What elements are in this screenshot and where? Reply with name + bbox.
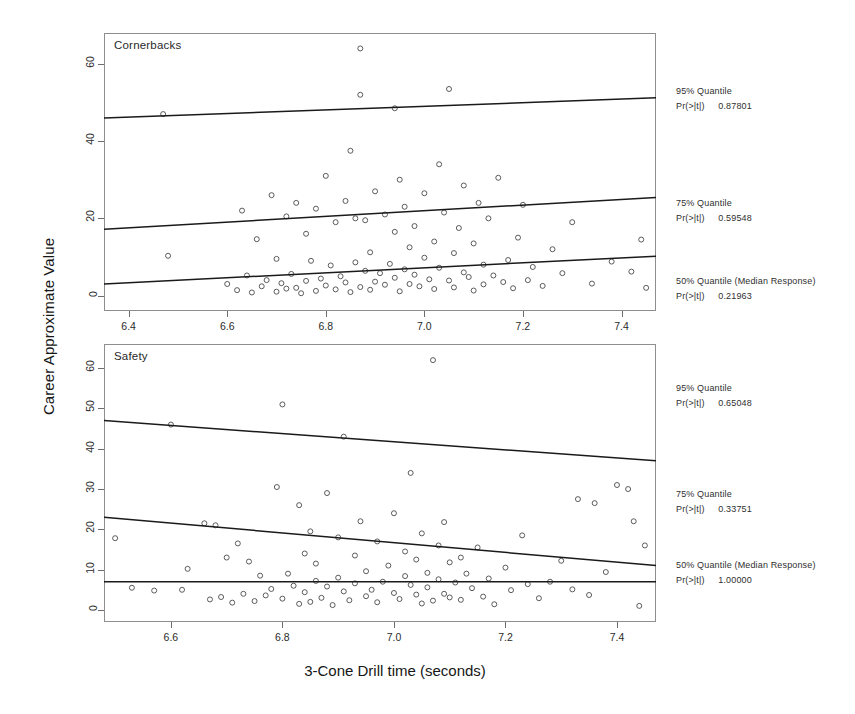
data-point xyxy=(486,576,491,581)
y-tick-text: 30 xyxy=(84,481,96,493)
annotation-pvalue-line: Pr(>|t|) 1.00000 xyxy=(676,573,816,588)
data-point xyxy=(364,594,369,599)
data-point xyxy=(603,570,608,575)
data-point xyxy=(525,278,530,283)
data-point xyxy=(240,208,245,213)
data-point xyxy=(451,285,456,290)
data-point xyxy=(430,358,435,363)
data-point xyxy=(609,259,614,264)
x-tick-label: 6.4 xyxy=(109,311,149,332)
x-tick-label: 7.0 xyxy=(404,311,444,332)
x-tick-label: 7.2 xyxy=(503,311,543,332)
data-point xyxy=(456,225,461,230)
data-point xyxy=(471,241,476,246)
data-point xyxy=(509,588,514,593)
data-point xyxy=(481,594,486,599)
data-point xyxy=(506,258,511,263)
data-point xyxy=(129,585,134,590)
data-point xyxy=(313,288,318,293)
data-point xyxy=(408,582,413,587)
y-tick-label: 50 xyxy=(50,400,96,412)
data-point xyxy=(352,553,357,558)
annotation-stat-label: Pr(>|t|) xyxy=(676,398,705,408)
data-point xyxy=(263,593,268,598)
annotation-quantile-label: 95% Quantile xyxy=(676,381,752,396)
data-point xyxy=(363,218,368,223)
data-point xyxy=(644,285,649,290)
y-axis-title: Career Approximate Value xyxy=(40,197,57,457)
data-point xyxy=(412,224,417,229)
data-point xyxy=(299,291,304,296)
data-point xyxy=(274,289,279,294)
annotation-stat-label: Pr(>|t|) xyxy=(676,291,705,301)
data-point xyxy=(402,204,407,209)
y-tick-mark xyxy=(98,408,104,409)
data-point xyxy=(325,584,330,589)
data-point xyxy=(430,598,435,603)
data-point xyxy=(466,275,471,280)
data-point xyxy=(323,173,328,178)
annotation-pvalue: 1.00000 xyxy=(718,573,752,588)
x-axis-title: 3-Cone Drill time (seconds) xyxy=(185,662,605,679)
x-tick-label: 7.2 xyxy=(485,622,525,643)
data-point xyxy=(403,549,408,554)
panel-label-cornerbacks: Cornerbacks xyxy=(114,39,181,51)
data-point xyxy=(432,239,437,244)
annotation-pvalue: 0.33751 xyxy=(718,502,752,517)
data-point xyxy=(259,284,264,289)
data-point xyxy=(343,198,348,203)
data-point xyxy=(286,571,291,576)
data-point xyxy=(453,580,458,585)
annotation-pvalue-line: Pr(>|t|) 0.21963 xyxy=(676,289,816,304)
data-point xyxy=(442,591,447,596)
data-point xyxy=(403,574,408,579)
data-point xyxy=(249,290,254,295)
data-point xyxy=(392,229,397,234)
data-point xyxy=(407,281,412,286)
data-point xyxy=(481,282,486,287)
data-point xyxy=(397,597,402,602)
data-point xyxy=(378,271,383,276)
annotation-quantile-label: 75% Quantile xyxy=(676,196,752,211)
data-point xyxy=(451,251,456,256)
x-tick-label: 7.4 xyxy=(602,311,642,332)
x-tick-label: 6.8 xyxy=(306,311,346,332)
data-point xyxy=(397,177,402,182)
data-point xyxy=(432,286,437,291)
data-point xyxy=(391,511,396,516)
data-point xyxy=(587,593,592,598)
data-point xyxy=(407,245,412,250)
data-point xyxy=(333,287,338,292)
annotation-quantile-label: 95% Quantile xyxy=(676,84,752,99)
data-point xyxy=(225,281,230,286)
data-point xyxy=(274,256,279,261)
annotation-stat-label: Pr(>|t|) xyxy=(676,575,705,585)
data-point xyxy=(501,280,506,285)
annotation-cornerbacks-q50: 50% Quantile (Median Response) Pr(>|t|) … xyxy=(676,274,816,303)
annotation-pvalue: 0.59548 xyxy=(718,211,752,226)
data-point xyxy=(333,220,338,225)
data-point xyxy=(246,559,251,564)
y-tick-text: 20 xyxy=(84,521,96,533)
y-tick-mark xyxy=(98,368,104,369)
panel-cornerbacks: Cornerbacks 02040606.46.66.87.07.27.4 xyxy=(104,33,656,311)
y-tick-label: 60 xyxy=(50,360,96,372)
annotation-pvalue-line: Pr(>|t|) 0.65048 xyxy=(676,396,752,411)
data-point xyxy=(224,555,229,560)
y-tick-label: 20 xyxy=(50,210,96,222)
data-point xyxy=(496,175,501,180)
scatter-plot-area-safety xyxy=(104,344,656,622)
data-point xyxy=(313,578,318,583)
x-tick-label: 7.4 xyxy=(597,622,637,643)
data-point xyxy=(264,278,269,283)
y-tick-label: 60 xyxy=(50,56,96,68)
data-point xyxy=(511,286,516,291)
data-point xyxy=(369,587,374,592)
x-tick-label: 7.0 xyxy=(374,622,414,643)
data-point xyxy=(570,587,575,592)
data-point xyxy=(368,287,373,292)
data-point xyxy=(461,270,466,275)
data-point xyxy=(358,92,363,97)
data-point xyxy=(614,483,619,488)
data-point xyxy=(280,596,285,601)
